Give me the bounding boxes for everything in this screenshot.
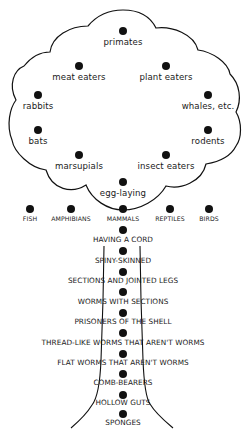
node-dot-prisoners-of-the-shell bbox=[119, 309, 127, 317]
label-having-a-cord: HAVING A CORD bbox=[93, 236, 153, 243]
node-dot-meat-eaters bbox=[75, 62, 83, 70]
node-dot-plant-eaters bbox=[162, 62, 170, 70]
label-sponges: SPONGES bbox=[105, 419, 140, 426]
label-whales: whales, etc. bbox=[182, 102, 235, 111]
label-rabbits: rabbits bbox=[23, 102, 54, 111]
label-worms-with-sections: WORMS WITH SECTIONS bbox=[78, 298, 169, 305]
node-dot-worms-with-sections bbox=[119, 288, 127, 296]
label-jointed-legs: SECTIONS AND JOINTED LEGS bbox=[68, 277, 178, 284]
label-reptiles: REPTILES bbox=[155, 216, 185, 222]
node-dot-sponges bbox=[119, 410, 127, 418]
node-dot-egg-laying bbox=[119, 178, 127, 186]
label-hollow-guts: HOLLOW GUTS bbox=[95, 399, 150, 406]
node-dot-fish bbox=[26, 205, 34, 213]
node-dot-having-a-cord bbox=[119, 226, 127, 234]
label-prisoners-of-the-shell: PRISONERS OF THE SHELL bbox=[74, 318, 171, 325]
node-dot-spiny-skinned bbox=[119, 247, 127, 255]
label-egg-laying: egg-laying bbox=[100, 189, 146, 198]
node-dot-jointed-legs bbox=[119, 268, 127, 276]
label-amphibians: AMPHIBIANS bbox=[51, 216, 91, 222]
node-dot-flat-worms bbox=[119, 350, 127, 358]
label-flat-worms: FLAT WORMS THAT AREN'T WORMS bbox=[57, 359, 188, 366]
label-bats: bats bbox=[29, 137, 48, 146]
label-rodents: rodents bbox=[191, 137, 224, 146]
node-dot-reptiles bbox=[166, 205, 174, 213]
label-marsupials: marsupials bbox=[55, 162, 103, 171]
node-dot-rodents bbox=[204, 126, 212, 134]
node-dot-amphibians bbox=[67, 205, 75, 213]
label-thread-like-worms: THREAD-LIKE WORMS THAT AREN'T WORMS bbox=[42, 339, 205, 346]
label-fish: FISH bbox=[23, 216, 37, 222]
node-dot-primates bbox=[119, 27, 127, 35]
label-primates: primates bbox=[104, 38, 143, 47]
node-dot-mammals bbox=[119, 205, 127, 213]
node-dot-insect-eaters bbox=[162, 151, 170, 159]
node-dot-thread-like-worms bbox=[119, 329, 127, 337]
label-mammals: MAMMALS bbox=[107, 216, 140, 222]
node-dot-rabbits bbox=[34, 91, 42, 99]
label-comb-bearers: COMB-BEARERS bbox=[93, 379, 152, 386]
label-spiny-skinned: SPINY-SKINNED bbox=[95, 257, 151, 264]
node-dot-marsupials bbox=[75, 151, 83, 159]
label-plant-eaters: plant eaters bbox=[139, 73, 192, 82]
node-dot-bats bbox=[34, 126, 42, 134]
node-dot-whales bbox=[204, 91, 212, 99]
label-birds: BIRDS bbox=[199, 216, 219, 222]
node-dot-birds bbox=[205, 205, 213, 213]
label-insect-eaters: insect eaters bbox=[138, 162, 195, 171]
label-meat-eaters: meat eaters bbox=[52, 73, 105, 82]
node-dot-comb-bearers bbox=[119, 370, 127, 378]
